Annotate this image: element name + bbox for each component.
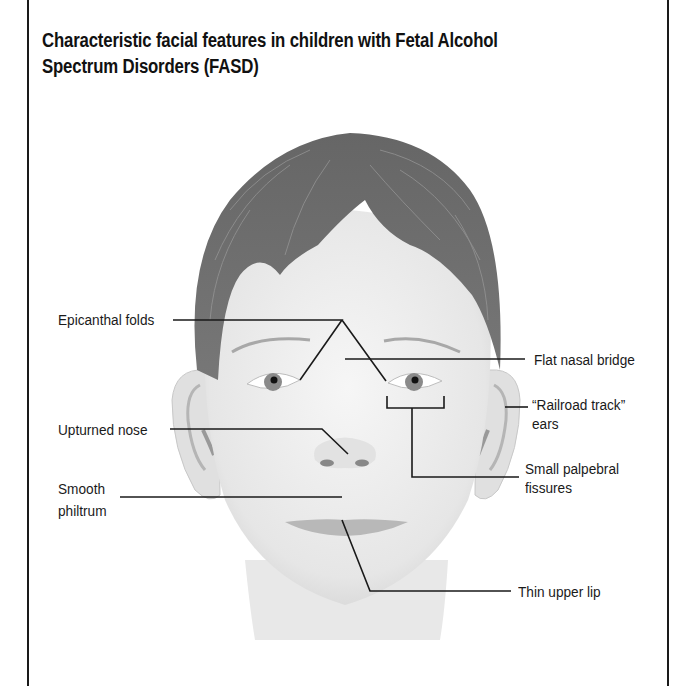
label-smooth-philtrum: Smooth philtrum <box>58 478 107 522</box>
label-upturned-nose: Upturned nose <box>58 420 147 439</box>
face-skin <box>204 210 491 605</box>
label-small-palpebral-fissures: Small palpebral fissures <box>525 459 619 497</box>
label-thin-upper-lip: Thin upper lip <box>518 582 601 601</box>
label-palpebral-line-1: Small palpebral <box>525 459 619 478</box>
label-philtrum-line-1: Smooth <box>58 478 107 500</box>
label-railroad-track-ears: “Railroad track” ears <box>532 395 625 433</box>
label-flat-nasal-bridge: Flat nasal bridge <box>534 350 635 369</box>
label-epicanthal-folds: Epicanthal folds <box>58 310 154 329</box>
label-palpebral-line-2: fissures <box>525 478 619 497</box>
label-railroad-line-1: “Railroad track” <box>532 395 625 414</box>
label-railroad-line-2: ears <box>532 414 625 433</box>
label-philtrum-line-2: philtrum <box>58 500 107 522</box>
